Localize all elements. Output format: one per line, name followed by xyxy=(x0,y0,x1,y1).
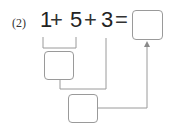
final-answer-box[interactable] xyxy=(132,10,163,40)
step2-answer-box[interactable] xyxy=(68,94,98,123)
arrow-up-icon xyxy=(144,41,150,47)
step1-answer-box[interactable] xyxy=(44,51,74,80)
